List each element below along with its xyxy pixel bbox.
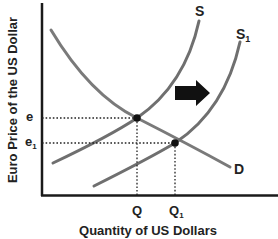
supply-demand-chart: S S1 D e e1 Q Q1 Quantity of US Dollars …	[0, 0, 278, 239]
tick-q: Q	[132, 203, 142, 218]
equilibrium-point-e1	[171, 139, 179, 147]
supply-curve-s1	[94, 42, 240, 186]
equilibrium-point-e	[133, 114, 141, 122]
tick-q1: Q1	[169, 203, 184, 220]
y-axis-title: Euro Price of the US Dollar	[5, 17, 20, 183]
label-s1: S1	[236, 26, 250, 44]
tick-e1: e1	[25, 134, 37, 151]
tick-e: e	[26, 109, 33, 124]
shift-right-arrow-icon	[175, 80, 210, 106]
label-d: D	[234, 161, 244, 177]
x-axis-title: Quantity of US Dollars	[79, 223, 217, 238]
label-s: S	[195, 3, 204, 19]
